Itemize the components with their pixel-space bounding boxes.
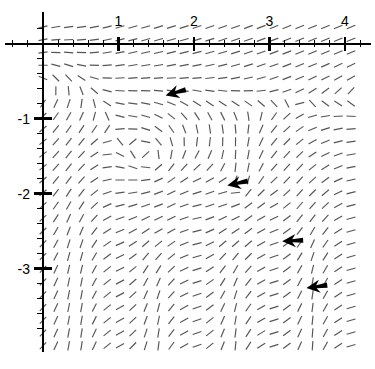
y-tick-label-2: -3 (18, 262, 30, 276)
y-tick-label-1: -2 (18, 187, 30, 201)
direction-field-plot: 1234 -1-2-3 (0, 0, 375, 369)
x-tick-label-0: 1 (115, 14, 123, 28)
x-tick-label-3: 4 (341, 14, 349, 28)
slope-field-dashes (38, 25, 355, 350)
x-tick-label-1: 2 (190, 14, 198, 28)
slope-field-canvas (0, 0, 375, 369)
arrow-3 (282, 234, 304, 248)
x-tick-label-2: 3 (266, 14, 274, 28)
arrow-1 (164, 83, 188, 101)
arrow-2 (226, 175, 249, 192)
arrow-4 (306, 279, 329, 295)
y-tick-label-0: -1 (18, 112, 30, 126)
axes-group (5, 12, 371, 352)
trajectory-arrows (164, 83, 328, 294)
